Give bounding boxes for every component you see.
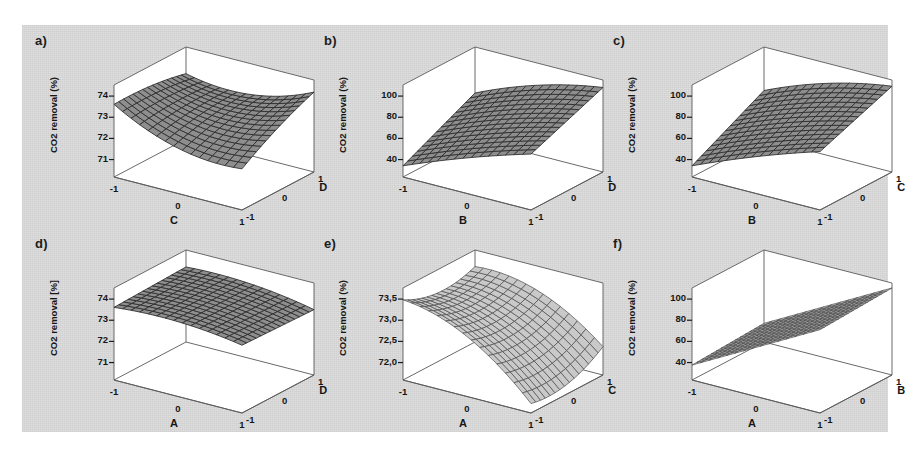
- z-axis-label-f: CO2 removal (%): [626, 280, 637, 356]
- panel-label-d: d): [35, 236, 48, 251]
- z-tick-d-2: 72: [80, 334, 108, 345]
- surface-plot-panel-c[interactable]: c)CO2 removal (%)100806040-101B-101C: [600, 25, 889, 228]
- z-axis-label-c: CO2 removal (%): [626, 77, 637, 153]
- y-tick-c-0: -1: [824, 211, 832, 222]
- z-tick-d-1: 73: [80, 313, 108, 324]
- x-axis-label-c: B: [748, 214, 756, 226]
- z-tick-c-1: 80: [658, 110, 686, 121]
- z-tick-b-1: 80: [369, 110, 397, 121]
- y-axis-label-f: B: [897, 384, 905, 396]
- y-tick-d-1: 0: [282, 395, 287, 406]
- z-tick-f-2: 60: [658, 334, 686, 345]
- x-tick-c-0: -1: [682, 183, 702, 194]
- x-tick-e-1: 0: [457, 403, 477, 414]
- panel-label-a: a): [35, 33, 47, 48]
- panel-label-c: c): [613, 33, 625, 48]
- panel-label-e: e): [324, 236, 336, 251]
- surface-plot-panel-e[interactable]: e)CO2 removal (%)73,573,072,572,0-101A-1…: [311, 228, 600, 431]
- z-tick-c-3: 40: [658, 153, 686, 164]
- surface-plot-panel-a[interactable]: a)CO2 removal (%)74737271-101C-101D: [22, 25, 311, 228]
- y-tick-e-1: 0: [571, 395, 576, 406]
- z-tick-c-2: 60: [658, 131, 686, 142]
- x-tick-a-1: 0: [168, 200, 188, 211]
- z-tick-e-2: 72,5: [369, 334, 397, 345]
- y-tick-b-0: -1: [535, 211, 543, 222]
- x-tick-f-0: -1: [682, 386, 702, 397]
- x-axis-label-e: A: [459, 417, 467, 429]
- z-tick-e-3: 72,0: [369, 356, 397, 367]
- x-axis-label-b: B: [459, 214, 467, 226]
- y-tick-a-1: 0: [282, 192, 287, 203]
- y-axis-label-c: C: [897, 181, 905, 193]
- y-tick-b-1: 0: [571, 192, 576, 203]
- x-tick-a-0: -1: [104, 183, 124, 194]
- z-tick-a-3: 71: [80, 153, 108, 164]
- y-tick-f-1: 0: [860, 395, 865, 406]
- y-tick-d-0: -1: [246, 414, 254, 425]
- z-tick-a-1: 73: [80, 110, 108, 121]
- x-tick-b-1: 0: [457, 200, 477, 211]
- z-tick-a-0: 74: [80, 89, 108, 100]
- z-tick-d-3: 71: [80, 356, 108, 367]
- z-tick-a-2: 72: [80, 131, 108, 142]
- z-tick-f-3: 40: [658, 356, 686, 367]
- z-tick-c-0: 100: [658, 89, 686, 100]
- x-tick-e-0: -1: [393, 386, 413, 397]
- x-axis-label-a: C: [170, 214, 178, 226]
- x-tick-f-1: 0: [746, 403, 766, 414]
- y-tick-a-0: -1: [246, 211, 254, 222]
- z-tick-d-0: 74: [80, 292, 108, 303]
- x-axis-label-f: A: [748, 417, 756, 429]
- z-tick-e-1: 73,0: [369, 313, 397, 324]
- z-tick-e-0: 73,5: [369, 292, 397, 303]
- y-tick-e-0: -1: [535, 414, 543, 425]
- x-tick-b-0: -1: [393, 183, 413, 194]
- z-axis-label-b: CO2 removal (%): [337, 77, 348, 153]
- surface-plot-grid: a)CO2 removal (%)74737271-101C-101Db)CO2…: [22, 25, 888, 432]
- x-tick-d-1: 0: [168, 403, 188, 414]
- z-axis-label-e: CO2 removal (%): [337, 280, 348, 356]
- surface-plot-panel-d[interactable]: d)CO2 removal [%]74737271-101A-101D: [22, 228, 311, 431]
- z-tick-b-0: 100: [369, 89, 397, 100]
- z-tick-f-0: 100: [658, 292, 686, 303]
- z-tick-f-1: 80: [658, 313, 686, 324]
- x-tick-c-1: 0: [746, 200, 766, 211]
- x-axis-label-d: A: [170, 417, 178, 429]
- y-tick-c-1: 0: [860, 192, 865, 203]
- z-tick-b-2: 60: [369, 131, 397, 142]
- surface-plot-panel-f[interactable]: f)CO2 removal (%)100806040-101A-101B: [600, 228, 889, 431]
- x-tick-d-0: -1: [104, 386, 124, 397]
- z-tick-b-3: 40: [369, 153, 397, 164]
- panel-label-f: f): [613, 236, 622, 251]
- panel-label-b: b): [324, 33, 337, 48]
- surface-plot-panel-b[interactable]: b)CO2 removal (%)100806040-101B-101D: [311, 25, 600, 228]
- z-axis-label-a: CO2 removal (%): [48, 77, 59, 153]
- z-axis-label-d: CO2 removal [%]: [48, 280, 59, 356]
- y-tick-f-0: -1: [824, 414, 832, 425]
